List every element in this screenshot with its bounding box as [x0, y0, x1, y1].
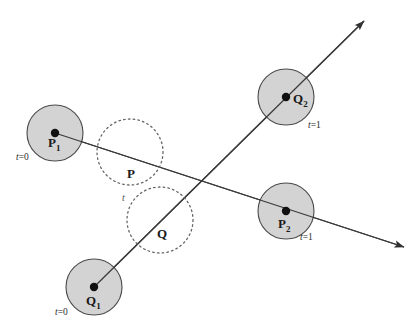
trajectory-overlay-group [55, 21, 404, 287]
param-labels-group: t [122, 192, 125, 203]
label-q-interpolated: Q [157, 226, 167, 241]
label-q2-sub: 2 [303, 99, 308, 109]
interpolated-labels-group: P Q [127, 166, 167, 241]
center-dot-p2 [282, 207, 290, 215]
label-q2-main: Q [293, 91, 303, 106]
label-p1-sub: 1 [56, 143, 61, 153]
label-p1-main: P [48, 135, 56, 150]
label-p2-main: P [278, 216, 286, 231]
label-t-parameter: t [122, 192, 125, 203]
center-dot-q2 [282, 93, 290, 101]
trajectory-line-q-overlay [94, 21, 364, 287]
time-label-p1: t=0 [16, 152, 29, 162]
label-p-interpolated: P [127, 166, 135, 181]
label-q1-sub: 1 [96, 301, 101, 311]
time-label-p2-val: =1 [303, 232, 313, 242]
label-p2-sub: 2 [286, 224, 291, 234]
center-dot-q1 [90, 283, 98, 291]
circle-q-interpolated [127, 187, 193, 253]
time-label-q1: t=0 [55, 307, 68, 317]
solid-circles-group [27, 69, 314, 315]
figure-container: P1 P2 Q1 Q2 P Q t=0 t=1 [0, 0, 416, 333]
time-label-p2: t=1 [300, 232, 313, 242]
time-label-q1-val: =0 [58, 307, 68, 317]
diagram-canvas: P1 P2 Q1 Q2 P Q t=0 t=1 [0, 0, 416, 333]
trajectory-line-p-overlay [55, 133, 404, 247]
time-label-q2: t=1 [308, 120, 321, 130]
time-label-p1-val: =0 [19, 152, 29, 162]
label-q1-main: Q [86, 293, 96, 308]
time-label-q2-val: =1 [311, 120, 321, 130]
dotted-circles-group [97, 119, 193, 253]
